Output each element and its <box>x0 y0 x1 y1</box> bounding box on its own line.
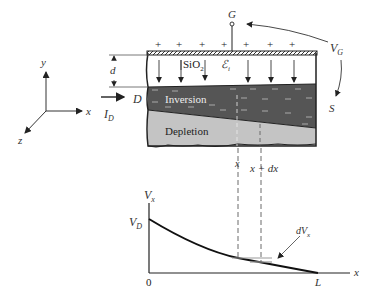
axis-x-label: x <box>85 105 91 117</box>
vg-arrow-to-source <box>336 60 341 96</box>
svg-text:+: + <box>176 38 182 50</box>
slice-x-dx-label: x + dx <box>249 162 278 174</box>
gate-label: G <box>228 8 236 20</box>
coordinate-axes: y x z <box>17 56 91 146</box>
svg-text:+: + <box>155 38 161 50</box>
oxide-region <box>148 53 316 87</box>
gate-voltage-label: VG <box>330 41 343 57</box>
depletion-label: Depletion <box>165 125 209 137</box>
svg-text:+: + <box>221 38 227 50</box>
origin-label: 0 <box>146 276 152 288</box>
drain-label: D <box>132 92 142 106</box>
mos-device: d + + + + + + + SiO2 ℰi <box>101 8 343 147</box>
gate-charges: + + + + + + + <box>155 38 295 50</box>
svg-text:+: + <box>267 38 273 50</box>
svg-text:+: + <box>243 38 249 50</box>
svg-text:+: + <box>289 38 295 50</box>
gate-electrode <box>147 51 317 55</box>
drain-current-label: ID <box>103 107 114 123</box>
voltage-curve <box>149 219 318 273</box>
inversion-label: Inversion <box>165 93 207 105</box>
end-label: L <box>314 276 321 288</box>
graph-y-label: Vx <box>144 188 155 204</box>
source-label: S <box>329 102 335 114</box>
dvx-arrow <box>278 236 300 258</box>
axis-y-label: y <box>40 56 46 68</box>
thickness-label: d <box>110 64 116 76</box>
slice-lines: x x + dx <box>234 148 278 262</box>
vd-label: VD <box>129 215 142 231</box>
svg-text:+: + <box>199 38 205 50</box>
graph-x-label: x <box>353 266 359 278</box>
axis-z-label: z <box>17 134 23 146</box>
dvx-label: dVx <box>296 225 311 239</box>
slice-x-label: x <box>234 158 240 169</box>
vg-arrow-to-gate <box>247 24 328 42</box>
gate-terminal <box>230 22 234 26</box>
voltage-graph: dVx Vx VD x 0 L <box>129 188 359 288</box>
